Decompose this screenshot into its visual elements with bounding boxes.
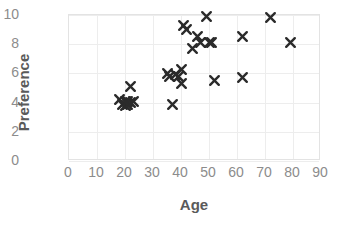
x-axis-tick-label: 0 — [53, 165, 83, 179]
data-point-marker — [194, 36, 207, 49]
x-axis-tick-label: 10 — [81, 165, 111, 179]
x-axis-tick-label: 30 — [137, 165, 167, 179]
x-axis-tick-label: 90 — [305, 165, 335, 179]
x-axis-tick-label: 20 — [109, 165, 139, 179]
y-axis-tick-label: 6 — [0, 65, 19, 79]
x-axis-tick-label: 60 — [221, 165, 251, 179]
gridline-vertical — [125, 15, 126, 159]
data-point-marker — [264, 11, 277, 24]
data-point-marker — [208, 74, 221, 87]
gridline-horizontal — [69, 73, 319, 74]
data-point-marker — [121, 95, 134, 108]
gridline-vertical — [209, 15, 210, 159]
x-axis-tick-label: 70 — [249, 165, 279, 179]
x-axis-title: Age — [68, 196, 320, 213]
x-axis-tick-label: 50 — [193, 165, 223, 179]
data-point-marker — [200, 10, 213, 23]
y-axis-tick-label: 8 — [0, 36, 19, 50]
x-axis-tick-label: 40 — [165, 165, 195, 179]
data-point-marker — [124, 80, 137, 93]
gridline-vertical — [293, 15, 294, 159]
data-point-marker — [177, 19, 190, 32]
scatter-chart: Preference Age 0246810 01020304050607080… — [0, 0, 345, 226]
data-point-marker — [127, 95, 140, 108]
gridline-vertical — [97, 15, 98, 159]
data-point-marker — [113, 93, 126, 106]
data-point-marker — [180, 23, 193, 36]
data-point-marker — [191, 30, 204, 43]
data-point-marker — [166, 98, 179, 111]
gridline-horizontal — [69, 44, 319, 45]
y-axis-tick-label: 4 — [0, 95, 19, 109]
gridline-horizontal — [69, 15, 319, 16]
gridline-vertical — [181, 15, 182, 159]
data-point-marker — [205, 36, 218, 49]
data-point-marker — [116, 98, 129, 111]
gridline-vertical — [265, 15, 266, 159]
data-point-marker — [163, 70, 176, 83]
gridline-horizontal — [69, 132, 319, 133]
y-axis-tick-label: 10 — [0, 7, 19, 21]
gridline-vertical — [237, 15, 238, 159]
data-point-marker — [121, 98, 134, 111]
gridline-horizontal — [69, 103, 319, 104]
data-point-marker — [169, 68, 182, 81]
x-axis-tick-label: 80 — [277, 165, 307, 179]
data-point-marker — [284, 36, 297, 49]
plot-area — [68, 14, 320, 160]
data-point-marker — [236, 30, 249, 43]
y-axis-tick-label: 2 — [0, 124, 19, 138]
gridline-vertical — [153, 15, 154, 159]
data-point-marker — [172, 70, 185, 83]
y-axis-tick-label: 0 — [0, 153, 19, 167]
gridline-horizontal — [69, 161, 319, 162]
